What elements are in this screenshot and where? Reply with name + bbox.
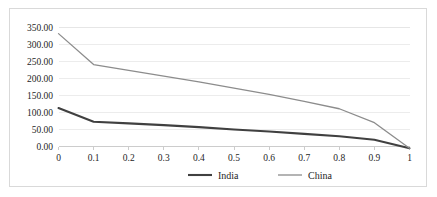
y-axis-tick-label: 250.00 (27, 57, 53, 67)
x-axis-tick-label: 0.9 (368, 153, 380, 163)
x-axis-tick-label: 1 (407, 153, 412, 163)
y-axis-tick-labels: 0.0050.00100.00150.00200.00250.00300.003… (27, 23, 53, 152)
x-axis-tick-label: 0.1 (88, 153, 100, 163)
chart-legend: IndiaChina (188, 170, 332, 181)
x-axis-tick-label: 0.8 (333, 153, 345, 163)
x-axis-tick-label: 0.2 (123, 153, 135, 163)
series-line-china (59, 34, 410, 149)
x-axis-tick-labels: 00.10.20.30.40.50.60.70.80.91 (56, 153, 412, 163)
x-axis-tick-label: 0.6 (263, 153, 275, 163)
x-axis-tick-label: 0.5 (228, 153, 240, 163)
y-axis-tick-label: 300.00 (27, 40, 53, 50)
y-axis-tick-label: 0.00 (36, 142, 53, 152)
data-series (59, 34, 410, 149)
legend-label-india: India (218, 170, 239, 181)
y-axis-tick-label: 100.00 (27, 108, 53, 118)
legend-label-china: China (308, 170, 332, 181)
y-axis-tick-label: 150.00 (27, 91, 53, 101)
y-axis-tick-label: 50.00 (32, 125, 54, 135)
line-chart: 0.0050.00100.00150.00200.00250.00300.003… (10, 9, 426, 186)
x-axis-tick-label: 0.3 (158, 153, 170, 163)
x-axis-tick-label: 0.4 (193, 153, 205, 163)
x-axis (59, 147, 410, 151)
x-axis-tick-label: 0.7 (298, 153, 310, 163)
chart-container: 0.0050.00100.00150.00200.00250.00300.003… (9, 8, 427, 187)
series-line-india (59, 108, 410, 148)
x-axis-tick-label: 0 (56, 153, 61, 163)
y-axis-tick-label: 200.00 (27, 74, 53, 84)
y-axis-tick-label: 350.00 (27, 23, 53, 33)
